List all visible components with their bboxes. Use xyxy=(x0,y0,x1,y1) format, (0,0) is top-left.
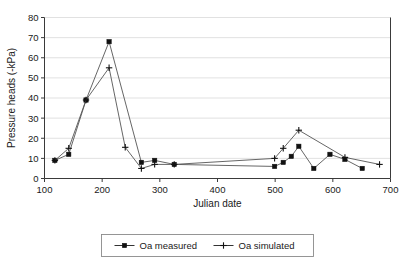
y-tick-label-30: 30 xyxy=(28,113,39,124)
marker-plus-oa-simulated-3 xyxy=(106,65,112,71)
y-tick-label-0: 0 xyxy=(33,173,38,184)
marker-square-oa-measured-1 xyxy=(67,152,71,156)
x-tick-label-400: 400 xyxy=(210,184,226,195)
x-tick-label-200: 200 xyxy=(94,184,110,195)
legend-label-0: Oa measured xyxy=(140,240,198,251)
y-tick-label-10: 10 xyxy=(28,153,39,164)
chart-legend: Oa measuredOa simulated xyxy=(102,235,314,257)
y-tick-label-40: 40 xyxy=(28,92,39,103)
x-tick-label-700: 700 xyxy=(383,184,399,195)
marker-square-oa-measured-9 xyxy=(289,154,293,158)
x-tick-label-300: 300 xyxy=(152,184,168,195)
marker-square-oa-measured-3 xyxy=(107,39,111,43)
marker-plus-oa-simulated-12 xyxy=(376,161,382,167)
x-axis-title: Julian date xyxy=(193,198,242,209)
y-tick-label-80: 80 xyxy=(28,12,39,23)
marker-square-oa-measured-11 xyxy=(312,166,316,170)
grid-lines xyxy=(45,18,391,159)
y-tick-label-60: 60 xyxy=(28,52,39,63)
y-tick-label-20: 20 xyxy=(28,133,39,144)
marker-square-oa-measured-7 xyxy=(272,164,276,168)
y-axis-ticks: 01020304050607080 xyxy=(28,12,45,184)
series-line-oa-measured xyxy=(55,42,362,169)
x-tick-label-500: 500 xyxy=(267,184,283,195)
pressure-heads-line-chart: 01020304050607080100200300400500600700Ju… xyxy=(0,0,413,274)
x-axis-ticks: 100200300400500600700 xyxy=(37,179,399,195)
marker-square-oa-measured-8 xyxy=(281,160,285,164)
y-tick-label-70: 70 xyxy=(28,32,39,43)
marker-square-legend0-legend xyxy=(122,243,126,247)
x-tick-label-100: 100 xyxy=(37,184,53,195)
marker-square-oa-measured-4 xyxy=(139,160,143,164)
legend-label-1: Oa simulated xyxy=(239,240,295,251)
y-axis-title: Pressure heads (-kPa) xyxy=(6,48,17,148)
marker-square-oa-measured-14 xyxy=(360,166,364,170)
x-tick-label-600: 600 xyxy=(325,184,341,195)
y-tick-label-50: 50 xyxy=(28,72,39,83)
marker-square-oa-measured-12 xyxy=(328,152,332,156)
chart-figure: 01020304050607080100200300400500600700Ju… xyxy=(0,0,413,274)
series-oa-measured xyxy=(53,39,365,170)
marker-square-oa-measured-10 xyxy=(297,144,301,148)
